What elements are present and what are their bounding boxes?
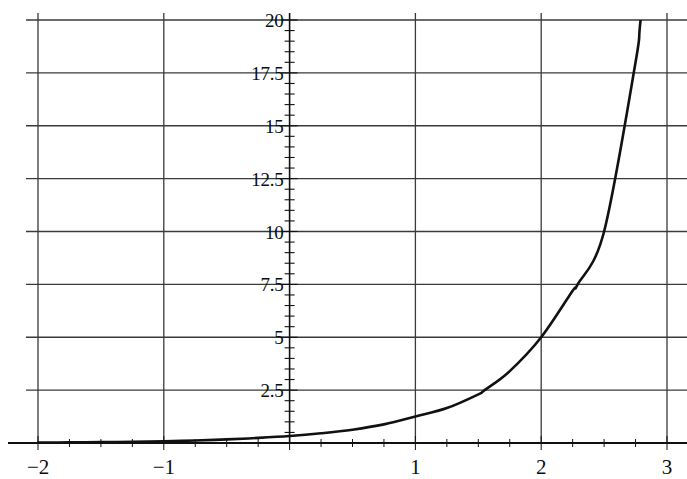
y-tick-label-12.5: 12.5 [251,169,283,188]
x-tick-label-1: 1 [410,457,420,478]
y-tick-label-7.5: 7.5 [260,275,283,294]
y-tick-label-10: 10 [265,222,284,241]
x-tick-label-2: 2 [536,457,546,478]
y-tick-label-2.5: 2.5 [260,381,283,400]
y-tick-label-17.5: 17.5 [251,63,283,82]
y-tick-label-5: 5 [274,328,283,347]
plot-area [0,0,687,479]
vertical-gridlines [38,13,667,443]
horizontal-gridlines [26,20,687,390]
data-curve [38,0,654,443]
y-tick-label-15: 15 [265,116,284,135]
y-tick-label-20: 20 [265,11,284,30]
x-tick-label-−2: −2 [27,457,49,478]
chart-figure: 2.557.51012.51517.520 −2−1123 [0,0,687,479]
x-tick-label-−1: −1 [153,457,175,478]
x-tick-label-3: 3 [662,457,672,478]
